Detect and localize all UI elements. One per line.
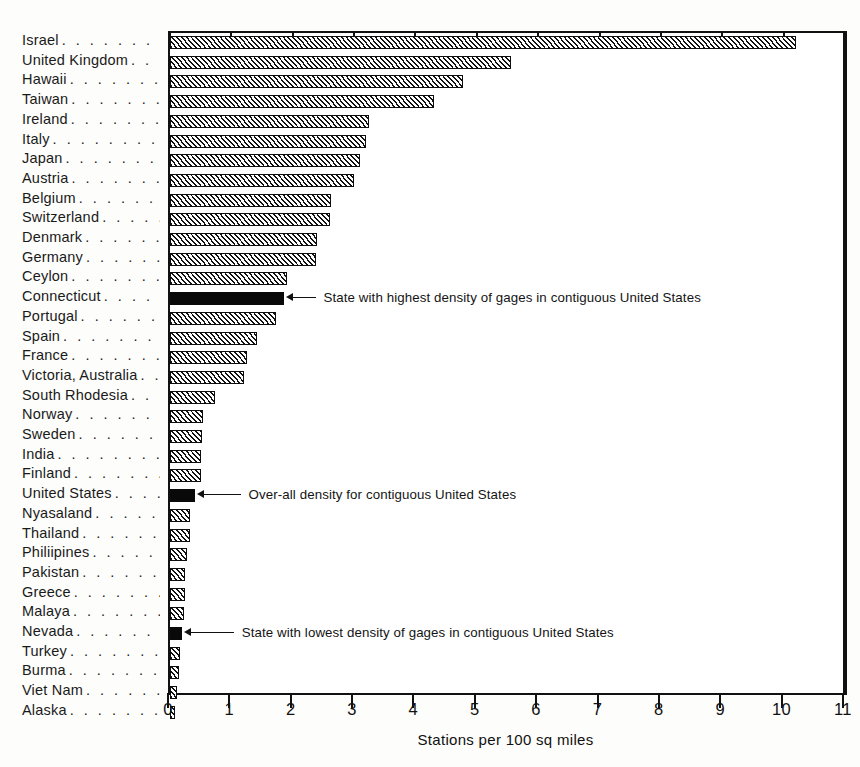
category-label-text: Ireland: [0, 110, 68, 130]
bar: [170, 115, 369, 128]
label-dot-leader: . . . . . . . . . . . . . . . . . . . .: [68, 267, 160, 287]
annotation-text: State with highest density of gages in c…: [324, 290, 701, 305]
category-label-text: Norway: [0, 405, 72, 425]
annotation-text: State with lowest density of gages in co…: [242, 625, 614, 640]
category-label-text: Malaya: [0, 602, 70, 622]
x-axis-title: Stations per 100 sq miles: [168, 731, 843, 748]
bar-row: [170, 388, 843, 408]
category-label: Thailand. . . . . . . . . . . . . . . . …: [0, 524, 160, 544]
bar: [170, 430, 202, 443]
bar: [170, 548, 187, 561]
label-dot-leader: . . . . . . . . . . . . . . . . . . . .: [101, 287, 160, 307]
category-label-text: Denmark: [0, 228, 82, 248]
bar-row: [170, 466, 843, 486]
bar: [170, 450, 201, 463]
category-label-text: Connecticut: [0, 287, 101, 307]
category-label-text: Japan: [0, 149, 63, 169]
bar: [170, 95, 434, 108]
bar: [170, 588, 185, 601]
category-label: Sweden. . . . . . . . . . . . . . . . . …: [0, 425, 160, 445]
x-tick-bottom: [658, 693, 660, 708]
category-label: Hawaii. . . . . . . . . . . . . . . . . …: [0, 70, 160, 90]
category-label-text: Portugal: [0, 307, 78, 327]
label-dot-leader: . . . . . . . . . . . . . . . . . . . .: [79, 563, 160, 583]
bar: [170, 371, 244, 384]
annotation-arrow-icon: [197, 489, 245, 499]
category-label-text: Nevada: [0, 622, 73, 642]
bar: [170, 135, 366, 148]
category-label: Austria. . . . . . . . . . . . . . . . .…: [0, 169, 160, 189]
bar-row: [170, 545, 843, 565]
label-dot-leader: . . . . . . . . . . . . . . . . . . . .: [71, 464, 160, 484]
label-dot-leader: . . . . . . . . . . . . . . . . . . . .: [138, 366, 160, 386]
bar-row: [170, 329, 843, 349]
label-dot-leader: . . . . . . . . . . . . . . . . . . . .: [128, 386, 160, 406]
label-dot-leader: . . . . . . . . . . . . . . . . . . . .: [78, 307, 160, 327]
category-label-text: Philiipines: [0, 543, 90, 563]
bar-row: [170, 644, 843, 664]
bar-row: [170, 92, 843, 112]
category-label-text: Spain: [0, 327, 60, 347]
x-tick-bottom: [474, 693, 476, 708]
bar-row: [170, 171, 843, 191]
label-dot-leader: . . . . . . . . . . . . . . . . . . . .: [50, 130, 160, 150]
label-dot-leader: . . . . . . . . . . . . . . . . . . . .: [66, 661, 160, 681]
category-label-text: Turkey: [0, 642, 67, 662]
bar: [170, 469, 201, 482]
bar-row: [170, 230, 843, 250]
label-dot-leader: . . . . . . . . . . . . . . . . . . . .: [67, 70, 160, 90]
category-label: Philiipines. . . . . . . . . . . . . . .…: [0, 543, 160, 563]
category-label: Turkey. . . . . . . . . . . . . . . . . …: [0, 642, 160, 662]
bar: [170, 666, 179, 679]
arrow-shaft: [188, 632, 234, 634]
category-label: United Kingdom. . . . . . . . . . . . . …: [0, 51, 160, 71]
bar-row: [170, 506, 843, 526]
category-label-text: Italy: [0, 130, 50, 150]
bar-row: [170, 309, 843, 329]
category-label-text: Viet Nam: [0, 681, 83, 701]
bar: [170, 253, 316, 266]
category-label: Spain. . . . . . . . . . . . . . . . . .…: [0, 327, 160, 347]
x-tick-bottom: [842, 693, 844, 708]
bar: [170, 351, 247, 364]
bar-row: [170, 132, 843, 152]
label-dot-leader: . . . . . . . . . . . . . . . . . . . .: [76, 425, 160, 445]
label-dot-leader: . . . . . . . . . . . . . . . . . . . .: [83, 248, 160, 268]
bar-row: [170, 407, 843, 427]
category-label: Burma. . . . . . . . . . . . . . . . . .…: [0, 661, 160, 681]
label-dot-leader: . . . . . . . . . . . . . . . . . . . .: [70, 602, 160, 622]
category-label: India. . . . . . . . . . . . . . . . . .…: [0, 445, 160, 465]
chart-annotation: Over-all density for contiguous United S…: [197, 485, 517, 503]
label-dot-leader: . . . . . . . . . . . . . . . . . . . .: [63, 149, 160, 169]
bar-row: [170, 565, 843, 585]
bar-row: [170, 250, 843, 270]
x-tick-bottom: [412, 693, 414, 708]
label-dot-leader: . . . . . . . . . . . . . . . . . . . .: [54, 445, 160, 465]
bar-row: [170, 427, 843, 447]
bar-row: [170, 368, 843, 388]
category-label-text: Hawaii: [0, 70, 67, 90]
bar-highlighted: [170, 627, 182, 640]
category-label: Malaya. . . . . . . . . . . . . . . . . …: [0, 602, 160, 622]
label-dot-leader: . . . . . . . . . . . . . . . . . . . .: [72, 405, 160, 425]
category-label-text: Nyasaland: [0, 504, 92, 524]
label-dot-leader: . . . . . . . . . . . . . . . . . . . .: [79, 524, 160, 544]
bar: [170, 607, 184, 620]
label-dot-leader: . . . . . . . . . . . . . . . . . . . .: [92, 504, 160, 524]
bar: [170, 272, 287, 285]
annotation-arrow-icon: [286, 292, 320, 302]
x-tick-bottom: [290, 693, 292, 708]
bar: [170, 509, 190, 522]
category-label-text: Switzerland: [0, 208, 99, 228]
category-label: Taiwan. . . . . . . . . . . . . . . . . …: [0, 90, 160, 110]
category-label: South Rhodesia. . . . . . . . . . . . . …: [0, 386, 160, 406]
bar-row: [170, 191, 843, 211]
category-label: France. . . . . . . . . . . . . . . . . …: [0, 346, 160, 366]
category-label-text: Greece: [0, 583, 71, 603]
label-dot-leader: . . . . . . . . . . . . . . . . . . . .: [68, 110, 160, 130]
label-dot-leader: . . . . . . . . . . . . . . . . . . . .: [73, 622, 160, 642]
bar: [170, 233, 317, 246]
bar: [170, 332, 257, 345]
annotation-text: Over-all density for contiguous United S…: [249, 487, 517, 502]
category-label: Switzerland. . . . . . . . . . . . . . .…: [0, 208, 160, 228]
